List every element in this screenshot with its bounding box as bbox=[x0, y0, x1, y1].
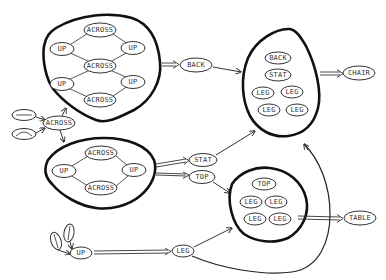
node-leg: LEG bbox=[172, 245, 194, 257]
svg-text:LEG: LEG bbox=[244, 198, 257, 206]
svg-text:ACROSS: ACROSS bbox=[88, 149, 115, 157]
lower-to-top-double-arrow bbox=[156, 172, 189, 179]
svg-text:LEG: LEG bbox=[176, 247, 189, 255]
node-leg: LEG bbox=[269, 213, 291, 225]
node-across: ACROSS bbox=[84, 59, 116, 73]
svg-text:LEG: LEG bbox=[290, 106, 303, 114]
svg-text:TOP: TOP bbox=[195, 173, 208, 181]
svg-text:LEG: LEG bbox=[256, 89, 269, 97]
node-leg: LEG bbox=[281, 86, 303, 98]
node-up: UP bbox=[122, 164, 146, 177]
node-across: ACROSS bbox=[84, 23, 116, 37]
svg-text:LEG: LEG bbox=[273, 215, 286, 223]
node-chair[interactable]: CHAIR bbox=[343, 66, 375, 80]
svg-text:BACK: BACK bbox=[187, 61, 205, 69]
svg-text:UP: UP bbox=[129, 78, 138, 86]
node-leg: LEG bbox=[286, 104, 308, 116]
svg-text:UP: UP bbox=[58, 45, 67, 53]
svg-text:UP: UP bbox=[130, 166, 139, 174]
back-to-chair-arrow bbox=[213, 67, 241, 72]
node-up: UP bbox=[121, 76, 145, 89]
svg-text:ACROSS: ACROSS bbox=[88, 184, 115, 192]
svg-text:UP: UP bbox=[77, 249, 86, 257]
svg-text:UP: UP bbox=[60, 167, 69, 175]
lower-assembly-group: ACROSS UP UP ACROSS bbox=[45, 138, 155, 209]
node-table[interactable]: TABLE bbox=[344, 211, 376, 225]
node-stat: STAT bbox=[265, 69, 291, 81]
chair-parts-group: BACK STAT LEG LEG LEG LEG bbox=[243, 29, 319, 136]
node-top: TOP bbox=[189, 171, 215, 184]
lower-to-stat-double-arrow bbox=[156, 157, 189, 167]
svg-text:UP: UP bbox=[129, 44, 138, 52]
svg-text:ACROSS: ACROSS bbox=[87, 62, 114, 70]
upper-to-back-double-arrow bbox=[162, 61, 179, 69]
vertical-line-primitive bbox=[63, 223, 76, 242]
curve-primitive bbox=[12, 129, 36, 140]
svg-text:LEG: LEG bbox=[262, 106, 275, 114]
svg-text:STAT: STAT bbox=[269, 71, 287, 79]
svg-text:TOP: TOP bbox=[257, 180, 270, 188]
svg-text:STAT: STAT bbox=[194, 156, 212, 164]
node-up: UP bbox=[50, 43, 74, 56]
node-leg: LEG bbox=[240, 196, 262, 208]
node-stat: STAT bbox=[189, 154, 217, 167]
chair-to-chair-double-arrow bbox=[320, 70, 343, 78]
leg-to-table-arrow bbox=[194, 228, 232, 247]
svg-text:ACROSS: ACROSS bbox=[46, 119, 73, 127]
svg-text:CHAIR: CHAIR bbox=[348, 69, 371, 77]
node-up: UP bbox=[52, 165, 76, 178]
svg-text:LEG: LEG bbox=[285, 88, 298, 96]
svg-text:TABLE: TABLE bbox=[349, 214, 371, 222]
chair-parts-outline bbox=[243, 29, 319, 136]
svg-text:LEG: LEG bbox=[248, 215, 261, 223]
table-parts-group: TOP LEG LEG LEG LEG bbox=[230, 168, 307, 242]
svg-text:ACROSS: ACROSS bbox=[87, 96, 114, 104]
node-back: BACK bbox=[180, 58, 212, 72]
top-to-table-arrow bbox=[213, 182, 230, 193]
node-up: UP bbox=[50, 78, 74, 91]
node-top: TOP bbox=[252, 178, 276, 190]
node-back: BACK bbox=[265, 52, 291, 64]
node-leg: LEG bbox=[265, 196, 287, 208]
node-up: UP bbox=[121, 42, 145, 55]
svg-text:LEG: LEG bbox=[269, 198, 282, 206]
stat-to-chair-arrow bbox=[216, 131, 255, 155]
node-leg: LEG bbox=[258, 104, 280, 116]
input-primitives: ACROSS bbox=[12, 108, 75, 142]
composition-diagram: ACROSS UP UP ACROSS UP UP ACROSS bbox=[0, 0, 386, 280]
node-across-input: ACROSS bbox=[43, 116, 75, 130]
upper-assembly-group: ACROSS UP UP ACROSS UP UP ACROSS bbox=[43, 15, 160, 121]
node-leg: LEG bbox=[244, 213, 266, 225]
node-leg: LEG bbox=[252, 87, 274, 99]
horizontal-line-primitive bbox=[12, 110, 36, 121]
up-to-leg-double-arrow bbox=[94, 248, 171, 255]
node-up-input: UP bbox=[70, 247, 92, 259]
svg-text:ACROSS: ACROSS bbox=[87, 26, 114, 34]
vertical-line-primitive bbox=[48, 231, 64, 251]
node-across: ACROSS bbox=[85, 181, 117, 195]
svg-text:UP: UP bbox=[58, 80, 67, 88]
svg-text:BACK: BACK bbox=[269, 54, 287, 62]
node-across: ACROSS bbox=[84, 93, 116, 107]
node-across: ACROSS bbox=[85, 146, 117, 160]
